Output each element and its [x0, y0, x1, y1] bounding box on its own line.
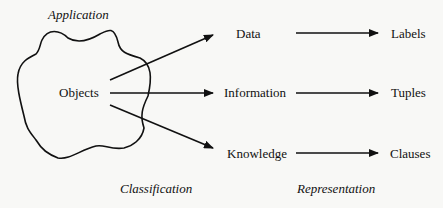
category-knowledge: Knowledge	[227, 147, 287, 160]
representation-arrows	[296, 33, 378, 153]
category-data: Data	[236, 27, 261, 40]
category-information: Information	[224, 86, 286, 99]
representation-tuples: Tuples	[391, 86, 426, 99]
representation-clauses: Clauses	[390, 147, 430, 160]
representation-caption: Representation	[297, 182, 375, 195]
representation-labels: Labels	[391, 27, 426, 40]
diagram-canvas	[0, 0, 443, 208]
objects-label: Objects	[59, 86, 99, 99]
classification-caption: Classification	[120, 182, 192, 195]
application-title: Application	[48, 8, 109, 21]
